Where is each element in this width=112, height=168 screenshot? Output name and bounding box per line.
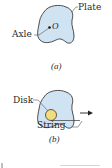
arrow-head-icon: [88, 111, 93, 116]
axle-label: Axle: [11, 29, 32, 39]
caption-a: (a): [51, 61, 62, 71]
disk-circle: [46, 110, 57, 121]
string-label: String: [37, 120, 66, 130]
point-o-label: O: [52, 21, 59, 31]
panel-a: Plate O Axle (a): [11, 2, 101, 71]
panel-b: Disk String (b): [13, 90, 93, 144]
diagram-canvas: Plate O Axle (a) Disk String (b): [0, 0, 112, 168]
bottom-edge-marks: [1, 163, 100, 168]
disk-label: Disk: [13, 95, 34, 105]
caption-b: (b): [49, 134, 60, 144]
plate-label: Plate: [78, 2, 101, 12]
